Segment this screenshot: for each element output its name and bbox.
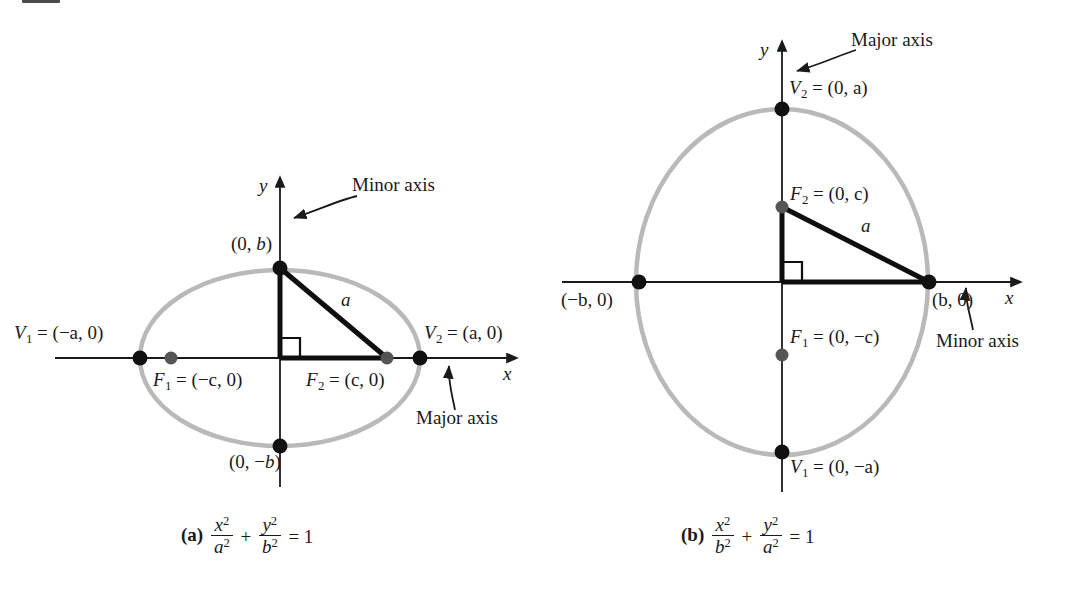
label-focus-top-b: F2 = (0, c) [790,184,869,207]
point-vertex-bottom-b [775,445,790,460]
caption-a-fraction-2: y2 b2 [259,515,281,556]
caption-b-operator: + [742,526,753,547]
point-vertex-top-b [775,102,790,117]
label-vertex-right-a: V2 = (a, 0) [424,323,503,346]
label-focus-left-a: F1 = (−c, 0) [153,370,242,393]
point-vertex-left-a [133,351,148,366]
caption-panel-b: (b) x2 b2 + y2 a2 = 1 [681,516,814,557]
caption-b-fraction-1: x2 b2 [712,515,734,556]
caption-b-fraction-2: y2 a2 [760,515,782,556]
point-co-vertex-left-b [632,275,647,290]
caption-marker-a: (a) [181,524,203,545]
point-vertex-right-a [413,351,428,366]
segment-label-a: a [341,290,351,309]
caption-b-equals: = 1 [789,526,814,547]
point-focus-top-b [776,201,789,214]
panel-b-graphics [562,50,1012,492]
point-focus-left-a [165,352,178,365]
leader-major-axis-b [797,50,856,71]
point-focus-right-a [381,352,394,365]
x-axis-label-a: x [503,364,511,383]
caption-a-fraction-1: x2 a2 [211,515,233,556]
minor-axis-note-a: Minor axis [352,175,435,194]
label-focus-bottom-b: F1 = (0, −c) [790,327,879,350]
point-focus-bottom-b [776,349,789,362]
point-co-vertex-top-a [273,261,288,276]
x-axis-label-b: x [1005,288,1013,307]
y-axis-label-a: y [259,176,267,195]
label-vertex-top-b: V2 = (0, a) [789,78,868,101]
segment-label-b: a [861,216,871,235]
label-co-vertex-left-b: (−b, 0) [561,290,613,309]
triangle-hypotenuse-a [280,268,387,358]
major-axis-note-a: Major axis [416,408,498,427]
label-vertex-left-a: V1 = (−a, 0) [14,323,103,346]
figure-canvas [0,0,1073,595]
label-co-vertex-right-b: (b, 0) [932,290,973,309]
label-co-vertex-top-a: (0, b) [231,234,272,253]
right-angle-marker-a [280,338,300,358]
y-axis-label-b: y [760,40,768,59]
triangle-hypotenuse-b [782,207,929,282]
right-angle-marker-b [782,262,802,282]
caption-marker-b: (b) [681,524,704,545]
label-co-vertex-bottom-a: (0, −b) [229,452,281,471]
leader-minor-axis-a [294,196,357,218]
label-vertex-bottom-b: V1 = (0, −a) [790,457,879,480]
leader-major-axis-a [449,366,455,410]
caption-a-operator: + [240,526,251,547]
ellipse-figure: y x Minor axis Major axis (0, b) (0, −b)… [0,0,1073,595]
caption-panel-a: (a) x2 a2 + y2 b2 = 1 [181,516,313,557]
point-co-vertex-right-b [922,275,937,290]
label-focus-right-a: F2 = (c, 0) [306,370,385,393]
major-axis-note-b: Major axis [851,30,933,49]
caption-a-equals: = 1 [288,526,313,547]
minor-axis-note-b: Minor axis [936,331,1019,350]
